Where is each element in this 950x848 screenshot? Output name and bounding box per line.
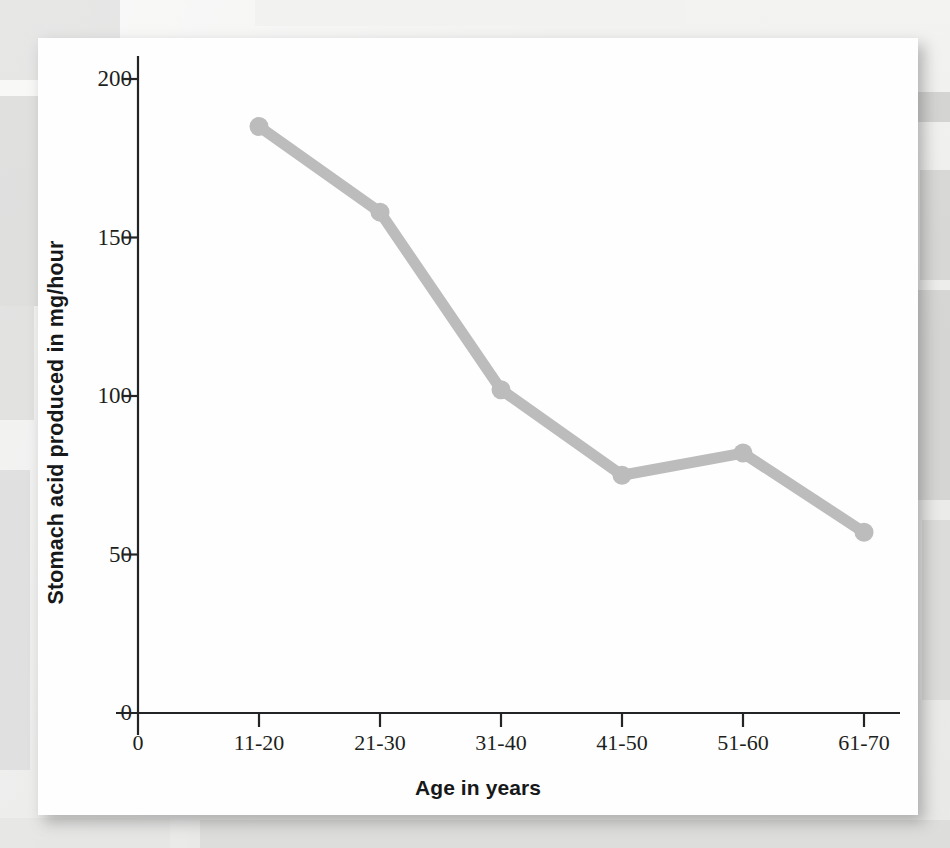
data-series	[250, 117, 874, 542]
chart-card: Stomach acid produced in mg/hour Age in …	[38, 38, 918, 815]
background-texture-patch	[918, 92, 950, 122]
background-texture-patch	[920, 170, 950, 280]
background-texture-patch	[0, 300, 34, 420]
background-texture-patch	[918, 290, 950, 500]
scanned-page-background: Stomach acid produced in mg/hour Age in …	[0, 0, 950, 848]
background-texture-patch	[0, 96, 40, 306]
chart-canvas	[38, 38, 918, 815]
background-texture-patch	[255, 0, 685, 26]
background-texture-patch	[200, 820, 950, 848]
background-texture-patch	[922, 520, 950, 700]
background-texture-patch	[0, 470, 30, 770]
background-texture-patch	[0, 818, 170, 848]
line-chart: Stomach acid produced in mg/hour Age in …	[38, 38, 918, 815]
